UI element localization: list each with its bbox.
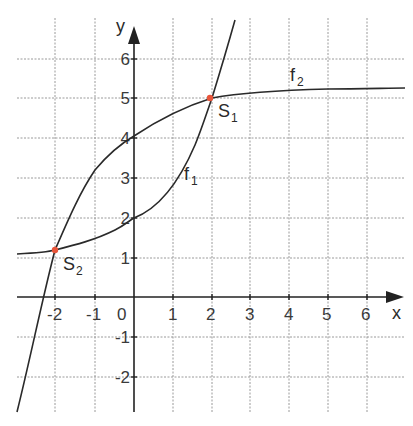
x-axis-label: x	[392, 303, 401, 323]
x-tick-label: 0	[117, 305, 126, 324]
x-tick-label: -2	[47, 305, 62, 324]
intersection-point-s1	[207, 95, 213, 101]
x-tick-label: 3	[245, 305, 254, 324]
y-tick-label: 6	[121, 50, 130, 69]
y-tick-label: 5	[121, 89, 130, 108]
x-tick-label: -1	[86, 305, 101, 324]
x-tick-label: 5	[322, 305, 331, 324]
x-tick-label: 6	[361, 305, 370, 324]
function-graph: -2 -1 0 1 2 3 4 5 6 6 5 4 3 2 1 -1 -2 x …	[0, 0, 413, 426]
grid	[17, 18, 405, 412]
intersection-point-s2	[52, 247, 58, 253]
y-tick-label: 3	[121, 169, 130, 188]
axes	[17, 40, 392, 412]
x-tick-labels: -2 -1 0 1 2 3 4 5 6	[47, 305, 370, 324]
f1-label: f	[184, 164, 190, 184]
y-axis-label: y	[116, 16, 125, 36]
s2-label: S	[63, 254, 75, 274]
y-tick-label: 1	[121, 249, 130, 268]
y-tick-label: -2	[115, 368, 130, 387]
y-tick-labels: 6 5 4 3 2 1 -1 -2	[115, 50, 130, 387]
curve-f2	[17, 88, 405, 254]
y-tick-label: -1	[115, 328, 130, 347]
x-tick-label: 4	[284, 305, 293, 324]
s1-label: S	[218, 101, 230, 121]
x-tick-label: 1	[168, 305, 177, 324]
y-axis-arrow-icon	[128, 26, 140, 44]
s2-label-sub: 2	[76, 264, 83, 278]
f2-label-sub: 2	[297, 75, 304, 89]
x-tick-label: 2	[206, 305, 215, 324]
x-axis-arrow-icon	[386, 291, 404, 303]
f1-label-sub: 1	[191, 174, 198, 188]
f2-label: f	[290, 65, 296, 85]
s1-label-sub: 1	[231, 111, 238, 125]
